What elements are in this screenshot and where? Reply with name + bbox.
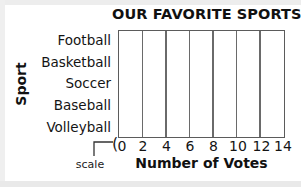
x-axis-tick-labels: 0 2 4 6 8 10 12 14: [118, 138, 285, 154]
scale-leader-line: [88, 141, 114, 157]
y-axis-label: Soccer: [65, 76, 114, 91]
gridline: [212, 31, 213, 137]
x-axis-tick: 14: [274, 138, 292, 154]
y-axis-label: Volleyball: [46, 120, 114, 135]
x-axis-tick: 12: [253, 138, 271, 154]
x-axis-tick: 4: [162, 138, 171, 154]
page-edge-left: [0, 0, 5, 187]
y-axis-label: Football: [58, 33, 114, 48]
chart-title: OUR FAVORITE SPORTS: [112, 6, 292, 22]
x-axis-tick: 8: [209, 138, 218, 154]
x-axis-tick: 0: [117, 138, 126, 154]
gridline: [259, 31, 260, 137]
worksheet-canvas: OUR FAVORITE SPORTS Sport Football Baske…: [0, 0, 301, 187]
scale-annotation-label: scale: [64, 158, 116, 171]
x-axis-tick: 2: [139, 138, 148, 154]
gridline: [165, 31, 166, 137]
gridline: [236, 31, 237, 137]
plot-area: [118, 30, 285, 138]
gridline: [189, 31, 190, 137]
page-edge-bottom: [0, 181, 301, 187]
y-axis-label: Baseball: [54, 98, 114, 113]
gridline: [142, 31, 143, 137]
y-axis-label: Basketball: [41, 55, 114, 70]
page-edge-top: [0, 0, 301, 5]
x-axis-tick: 10: [229, 138, 247, 154]
y-axis-title: Sport: [13, 54, 29, 114]
x-axis-tick: 6: [186, 138, 195, 154]
y-axis-category-labels: Football Basketball Soccer Baseball Voll…: [28, 30, 114, 138]
x-axis-title: Number of Votes: [118, 155, 285, 171]
